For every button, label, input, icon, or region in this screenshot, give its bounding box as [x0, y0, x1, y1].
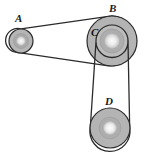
pulley-label-c: C	[91, 27, 98, 38]
pulley-A	[9, 29, 33, 53]
pulley-D	[90, 108, 130, 148]
pulley-label-d: D	[105, 96, 113, 107]
pulley-B-hub	[105, 34, 120, 49]
pulley-label-b: B	[109, 3, 116, 14]
pulley-D-hub	[104, 122, 117, 135]
pulley-diagram: A B C D	[0, 0, 146, 159]
pulley-A-hub	[17, 37, 26, 46]
pulley-label-a: A	[15, 13, 22, 24]
